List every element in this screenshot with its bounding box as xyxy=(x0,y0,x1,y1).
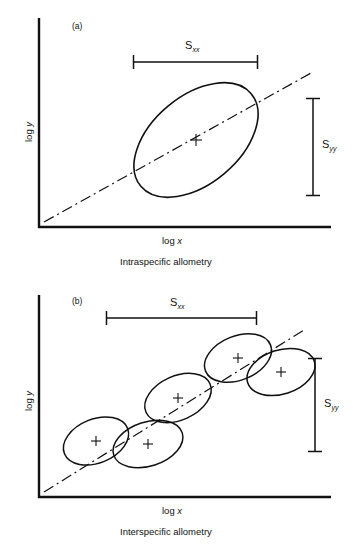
panel-b-caption: Interspecific allometry xyxy=(120,527,212,537)
syy-symbol: S xyxy=(322,138,330,150)
sxx-range-bracket xyxy=(106,311,257,325)
sxx-symbol: S xyxy=(170,296,178,308)
panel-a-caption: Intraspecific allometry xyxy=(120,257,212,267)
dash-dot-regression-line xyxy=(44,73,311,222)
ellipse-centroid-marker xyxy=(276,367,286,377)
sxx-subscript: xx xyxy=(178,303,185,310)
panel-a-sxx-label: Sxx xyxy=(185,40,200,53)
x-axis-label-prefix: log xyxy=(162,235,177,246)
panel-intraspecific-allometry: (a) Sxx Syy log y log x Intraspecific al… xyxy=(0,0,353,275)
panel-b-syy-label: Syy xyxy=(324,398,339,411)
ellipse-centroid-marker xyxy=(143,439,153,449)
x-axis-label-prefix: log xyxy=(162,505,177,516)
panel-b-sxx-label: Sxx xyxy=(170,297,185,310)
panel-interspecific-allometry: (b) Sxx Syy log y log x Interspecific al… xyxy=(0,275,353,545)
sxx-subscript: xx xyxy=(193,46,200,53)
panel-b-axes xyxy=(38,295,331,498)
panel-a-ellipse-group xyxy=(113,60,280,220)
syy-subscript: yy xyxy=(330,145,337,152)
y-axis-label-prefix: log xyxy=(23,396,34,411)
x-axis-label-variable: x xyxy=(177,505,182,516)
panel-b-tag: (b) xyxy=(72,297,82,306)
panel-a-x-axis-label: log x xyxy=(162,236,182,246)
syy-range-bracket xyxy=(308,358,322,452)
ellipse-centroid-marker xyxy=(190,134,202,146)
confidence-ellipse-1-group xyxy=(56,408,136,474)
x-axis-label-variable: x xyxy=(177,235,182,246)
panel-b-x-axis-label: log x xyxy=(162,506,182,516)
panel-a-trend-line xyxy=(44,73,311,222)
syy-range-bracket xyxy=(306,98,320,196)
syy-symbol: S xyxy=(324,397,332,409)
panel-a-tag: (a) xyxy=(72,22,82,31)
ellipse-centroid-marker xyxy=(173,393,183,403)
panel-a-y-axis-label: log y xyxy=(24,122,34,142)
panel-a-syy-label: Syy xyxy=(322,139,337,152)
panel-a-graphic xyxy=(0,0,353,275)
panel-b-y-axis-label: log y xyxy=(24,391,34,411)
ellipse-centroid-marker xyxy=(91,436,101,446)
y-axis-label-variable: y xyxy=(23,122,34,127)
sxx-range-bracket xyxy=(133,55,258,69)
panel-b-ellipse-group xyxy=(56,324,321,476)
y-axis-label-variable: y xyxy=(23,391,34,396)
y-axis-label-prefix: log xyxy=(23,127,34,142)
syy-subscript: yy xyxy=(332,404,339,411)
sxx-symbol: S xyxy=(185,39,193,51)
allometry-figure: (a) Sxx Syy log y log x Intraspecific al… xyxy=(0,0,353,545)
ellipse-centroid-marker xyxy=(233,353,243,363)
confidence-ellipse-5-group xyxy=(241,340,321,403)
